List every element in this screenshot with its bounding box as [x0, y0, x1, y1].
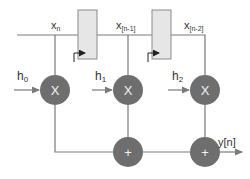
plus-icon: + [201, 145, 209, 160]
multiply-icon: X [51, 83, 60, 98]
fir-filter-diagram: xn x[n-1] x[n-2] h0 h1 h2 X X X + + [0, 0, 250, 179]
delay-register-1 [74, 10, 97, 62]
svg-text:h1: h1 [95, 69, 107, 84]
signal-label-x-n-1: x[n-1] [116, 19, 136, 33]
multiply-icon: X [201, 83, 210, 98]
svg-text:h2: h2 [172, 69, 184, 84]
multiplier-node-0: X [40, 75, 70, 105]
output-y: y[n] [218, 136, 242, 152]
multiplier-node-2: X [190, 75, 220, 105]
signal-label-x-n-2: x[n-2] [184, 19, 204, 33]
adder-node-1: + [113, 137, 143, 167]
multiplier-node-1: X [113, 75, 143, 105]
output-label: y[n] [218, 136, 236, 148]
adder-node-2: + [190, 137, 220, 167]
plus-icon: + [124, 145, 132, 160]
coefficient-h0: h0 [14, 69, 39, 90]
multiply-icon: X [124, 83, 133, 98]
coefficient-h2: h2 [168, 69, 189, 90]
delay-register-2 [148, 10, 171, 62]
svg-text:h0: h0 [17, 69, 29, 84]
signal-label-x-n: xn [51, 19, 61, 32]
coefficient-h1: h1 [92, 69, 112, 90]
